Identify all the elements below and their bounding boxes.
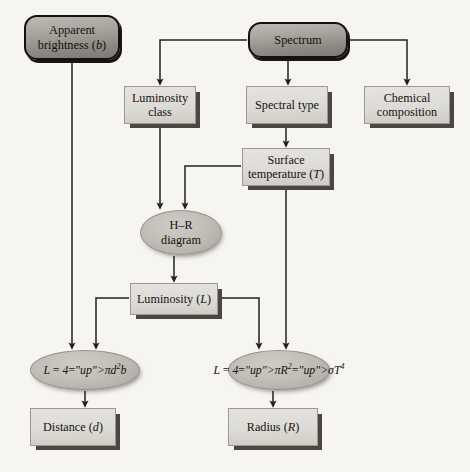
node-luminosity[interactable]: Luminosity (L) (130, 283, 218, 315)
node-formula-distance[interactable]: L = 4="up">πd2b (30, 350, 140, 390)
edge-luminosity-to-formula-distance (96, 298, 129, 346)
node-surface-temperature-line2: temperature (T) (248, 167, 324, 181)
node-luminosity-class-line1: Luminosity (132, 91, 188, 105)
node-spectrum[interactable]: Spectrum (248, 22, 348, 58)
node-apparent-brightness[interactable]: Apparent brightness (b) (24, 15, 120, 60)
node-apparent-brightness-line2: brightness (b) (38, 38, 107, 52)
edge-luminosity-to-formula-radius (219, 298, 259, 346)
node-apparent-brightness-line1: Apparent (49, 23, 95, 37)
edge-surface-temperature-to-hr-diagram (185, 166, 241, 206)
node-luminosity-class-line2: class (148, 105, 172, 119)
node-spectral-type[interactable]: Spectral type (246, 86, 328, 124)
node-hr-diagram[interactable]: H–R diagram (140, 210, 222, 255)
node-radius[interactable]: Radius (R) (228, 408, 318, 446)
node-surface-temperature-line1: Surface (267, 153, 304, 167)
edge-spectrum-to-luminosity-class (160, 40, 247, 82)
node-spectrum-label: Spectrum (268, 33, 328, 48)
node-distance-label: Distance (d) (39, 420, 107, 434)
node-formula-radius[interactable]: L = 4="up">πR2="up">σT4 (228, 350, 330, 390)
node-chemical-composition-line1: Chemical (384, 91, 431, 105)
node-luminosity-label: Luminosity (L) (133, 292, 215, 306)
node-radius-label: Radius (R) (243, 420, 303, 434)
node-spectral-type-label: Spectral type (251, 98, 323, 112)
node-formula-radius-label: L = 4="up">πR2="up">σT4 (210, 362, 349, 378)
flowchart-canvas: Apparent brightness (b) Spectrum Luminos… (0, 0, 470, 472)
node-chemical-composition[interactable]: Chemical composition (364, 86, 450, 124)
node-distance[interactable]: Distance (d) (30, 408, 116, 446)
edge-spectrum-to-chemical-composition (349, 40, 407, 82)
node-surface-temperature[interactable]: Surface temperature (T) (242, 148, 330, 186)
node-hr-diagram-line2: diagram (161, 233, 201, 247)
node-formula-distance-label: L = 4="up">πd2b (40, 362, 131, 378)
node-chemical-composition-line2: composition (377, 105, 437, 119)
connector-layer (0, 0, 470, 472)
node-hr-diagram-line1: H–R (169, 218, 192, 232)
node-luminosity-class[interactable]: Luminosity class (124, 86, 196, 124)
